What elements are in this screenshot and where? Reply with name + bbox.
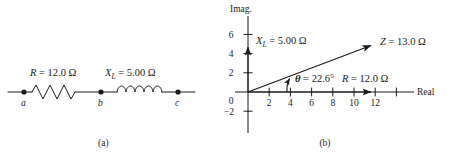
figure-container: R = 12.0 Ω XL = 5.00 Ω a — [0, 0, 455, 163]
x-tick-label-12: 12 — [370, 98, 380, 108]
y-tick-label-neg2: −2 — [224, 107, 234, 117]
node-b-dot — [98, 89, 103, 94]
node-c-label: c — [175, 98, 180, 108]
reactance-label: XL = 5.00 Ω — [255, 35, 307, 49]
caption-b: (b) — [319, 138, 330, 149]
inductor-label: XL = 5.00 Ω — [104, 67, 156, 81]
x-tick-label-8: 8 — [330, 98, 335, 108]
y-tick-label-4: 4 — [229, 49, 234, 59]
real-axis-label: Real — [417, 87, 435, 97]
node-a-dot — [21, 89, 26, 94]
node-a-label: a — [21, 98, 26, 108]
x-tick-label-6: 6 — [309, 98, 314, 108]
circuit-diagram-panel: R = 12.0 Ω XL = 5.00 Ω a — [0, 0, 228, 163]
y-tick-label-2: 2 — [229, 68, 234, 78]
x-tick-label-4: 4 — [288, 98, 293, 108]
impedance-vector — [248, 46, 371, 93]
phase-angle-label: θ = 22.6° — [295, 73, 334, 84]
y-tick-label-0: 0 — [229, 96, 234, 106]
impedance-label: Z = 13.0 Ω — [380, 36, 426, 47]
phasor-diagram-panel: Imag. Real 6 4 2 0 −2 2 — [215, 0, 455, 163]
x-tick-label-2: 2 — [267, 98, 272, 108]
node-c-dot — [175, 89, 180, 94]
y-tick-label-6: 6 — [229, 30, 234, 40]
angle-arc — [287, 79, 290, 92]
phasor-svg: Imag. Real 6 4 2 0 −2 2 — [215, 0, 455, 163]
node-b-label: b — [98, 98, 103, 108]
resistor-label: R = 12.0 Ω — [29, 67, 77, 78]
resistor-symbol — [32, 85, 75, 99]
caption-a: (a) — [98, 138, 109, 149]
imaginary-axis-label: Imag. — [230, 4, 252, 14]
inductor-symbol — [117, 86, 162, 92]
resistance-label: R = 12.0 Ω — [341, 73, 389, 84]
circuit-svg: R = 12.0 Ω XL = 5.00 Ω a — [0, 0, 228, 163]
x-tick-label-10: 10 — [349, 98, 359, 108]
